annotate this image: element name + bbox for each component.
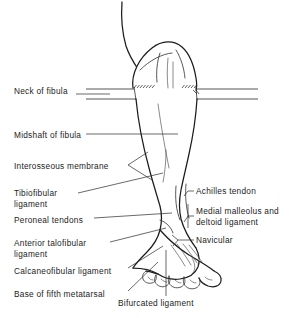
label-interosseous-membrane: Interosseous membrane (14, 161, 109, 172)
label-calcaneofibular-ligament: Calcaneofibular ligament (14, 266, 111, 277)
cut-edge-left (134, 87, 136, 100)
upper-thigh-edge (122, 2, 140, 72)
label-midshaft-of-fibula: Midshaft of fibula (14, 130, 81, 141)
anatomy-figure: Neck of fibula Midshaft of fibula Intero… (0, 0, 298, 318)
toe-knuckle-5 (148, 277, 153, 280)
label-navicular: Navicular (196, 235, 233, 246)
toe-knuckle-2 (190, 280, 196, 283)
toe-2 (183, 277, 200, 289)
label-bifurcated-ligament: Bifurcated ligament (118, 298, 194, 309)
leg-anterior-border (133, 99, 162, 268)
label-anterior-talofibular-ligament: Anterior talofibular ligament (14, 238, 86, 259)
calf-mass-outline (133, 42, 197, 90)
toe-knuckle-3 (175, 280, 181, 283)
label-peroneal-tendons: Peroneal tendons (14, 215, 83, 226)
great-toe (199, 271, 221, 287)
leg-lateral-shading (163, 150, 166, 182)
label-neck-of-fibula: Neck of fibula (14, 86, 68, 97)
label-tibiofibular-ligament: Tibiofibular ligament (14, 188, 57, 209)
label-base-of-fifth-metatarsal: Base of fifth metatarsal (14, 289, 105, 300)
fibula-shaft-shading (158, 104, 169, 168)
label-medial-malleolus-and-deltoid-ligament: Medial malleolus and deltoid ligament (196, 206, 279, 227)
label-achilles-tendon: Achilles tendon (196, 186, 256, 197)
